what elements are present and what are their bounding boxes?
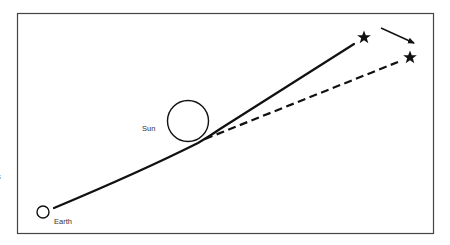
apparent-shift-arrow xyxy=(381,28,414,43)
sun-label: Sun xyxy=(142,125,155,133)
sun-icon xyxy=(168,101,209,142)
earth-icon xyxy=(37,206,49,218)
apparent-light-path xyxy=(205,62,398,139)
earth-label: Earth xyxy=(54,218,72,226)
cut-off-margin-text: s xyxy=(0,173,1,181)
light-deflection-diagram xyxy=(0,0,450,245)
diagram-frame xyxy=(18,14,434,234)
actual-star-icon xyxy=(357,31,371,44)
apparent-star-icon xyxy=(403,51,417,64)
